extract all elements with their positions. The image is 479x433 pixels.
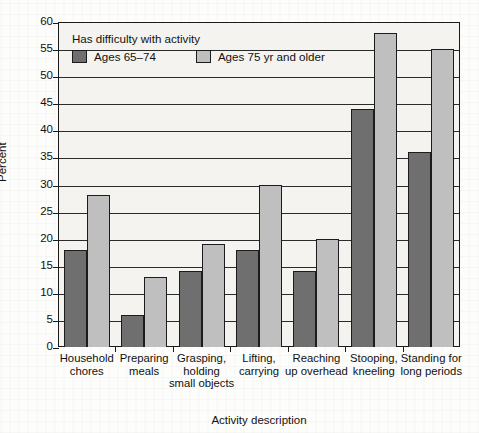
bar-1-3 [259, 185, 282, 348]
y-axis-tick-label: 15 [40, 260, 53, 272]
bar-group [288, 22, 345, 347]
bar-1-6 [431, 49, 454, 347]
y-axis-tick-label: 5 [47, 314, 53, 326]
bar-group [230, 22, 287, 347]
bar-chart: 051015202530354045505560 Percent Has dif… [0, 0, 479, 433]
legend-swatch-ages-65-74 [72, 50, 87, 63]
x-axis-title: Activity description [58, 414, 460, 426]
bar-0-4 [293, 271, 316, 347]
bar-0-0 [64, 250, 87, 348]
bar-1-4 [316, 239, 339, 347]
bar-group [173, 22, 230, 347]
y-axis-tick-label: 50 [40, 70, 53, 82]
bar-0-2 [179, 271, 202, 347]
y-axis-tick-label: 55 [40, 43, 53, 55]
category-label-line: Standing for [397, 352, 466, 365]
y-axis-tick-mark [53, 348, 59, 349]
y-axis-tick-label: 45 [40, 98, 53, 110]
y-axis-tick-label: 35 [40, 152, 53, 164]
x-axis-category-label: Standing forlong periods [397, 352, 466, 377]
legend-entries: Ages 65–74 Ages 75 yr and older [72, 50, 325, 63]
bar-0-5 [351, 109, 374, 347]
bar-0-6 [408, 152, 431, 347]
bar-1-1 [144, 277, 167, 347]
bar-0-1 [121, 315, 144, 348]
bar-group [403, 22, 460, 347]
legend-title: Has difficulty with activity [72, 32, 325, 45]
category-label-line: long periods [397, 365, 466, 378]
y-axis-title: Percent [0, 142, 8, 182]
bar-1-5 [374, 33, 397, 347]
legend: Has difficulty with activity Ages 65–74 … [66, 30, 331, 66]
bar-group [115, 22, 172, 347]
legend-swatch-ages-75-and-older [196, 50, 211, 63]
y-axis-tick-label: 30 [40, 179, 53, 191]
y-axis-tick-label: 10 [40, 287, 53, 299]
y-axis-tick-label: 60 [40, 16, 53, 28]
y-axis-tick-label: 40 [40, 125, 53, 137]
bar-group [58, 22, 115, 347]
y-axis-tick-label: 25 [40, 206, 53, 218]
bar-1-2 [202, 244, 225, 347]
legend-entry-series-1: Ages 75 yr and older [196, 50, 325, 63]
bar-0-3 [236, 250, 259, 348]
y-axis-tick-labels: 051015202530354045505560 [24, 22, 53, 347]
bar-group [345, 22, 402, 347]
legend-entry-series-0: Ages 65–74 [72, 50, 156, 63]
legend-label-ages-65-74: Ages 65–74 [94, 50, 156, 63]
category-label-line: small objects [167, 377, 236, 390]
y-axis-tick-label: 20 [40, 233, 53, 245]
legend-label-ages-75-and-older: Ages 75 yr and older [218, 50, 325, 63]
bar-1-0 [87, 195, 110, 347]
bars-layer [58, 22, 460, 347]
